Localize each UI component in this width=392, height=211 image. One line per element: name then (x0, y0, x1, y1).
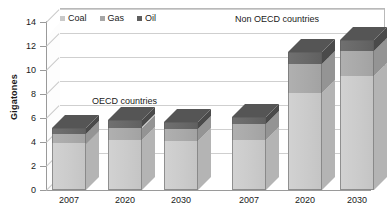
y-axis-label: 8 (0, 90, 36, 99)
segment-front-face (108, 140, 142, 190)
x-axis-label-2007-oecd: 2007 (46, 196, 92, 205)
y-axis-label: 4 (0, 138, 36, 147)
segment-coal-2020 (288, 93, 322, 190)
legend-item-oil[interactable]: Oil (137, 14, 156, 23)
segment-front-face (164, 141, 198, 190)
segment-oil-2007 (232, 117, 266, 124)
y-axis-label: 12 (0, 42, 36, 51)
y-axis-label: 2 (0, 162, 36, 171)
y-axis-label: 14 (0, 18, 36, 27)
legend-item-gas[interactable]: Gas (100, 14, 125, 23)
y-axis-tick (40, 142, 46, 143)
y-axis-label: 0 (0, 186, 36, 195)
bar-non-oecd-2007[interactable] (232, 0, 266, 211)
x-axis-label-2020-oecd: 2020 (102, 196, 148, 205)
segment-front-face (288, 64, 322, 93)
segment-oil-2020 (108, 120, 142, 127)
segment-front-face (288, 52, 322, 64)
segment-oil-2020 (288, 52, 322, 64)
segment-front-face (340, 76, 374, 190)
y-axis-tick (40, 46, 46, 47)
legend-label-coal: Coal (68, 14, 87, 23)
y-axis-tick (40, 118, 46, 119)
segment-gas-2007 (52, 134, 86, 144)
bar-non-oecd-2020[interactable] (288, 0, 322, 211)
segment-gas-2020 (288, 64, 322, 93)
y-axis-label: 6 (0, 114, 36, 123)
segment-coal-2020 (108, 140, 142, 190)
chart-legend: Coal Gas Oil (60, 14, 156, 23)
segment-front-face (108, 128, 142, 140)
segment-front-face (340, 51, 374, 76)
segment-coal-2007 (232, 140, 266, 190)
segment-front-face (52, 134, 86, 144)
annotation-oecd: OECD countries (92, 97, 157, 106)
segment-front-face (164, 122, 198, 129)
segment-gas-2020 (108, 128, 142, 140)
segment-front-face (232, 124, 266, 140)
segment-gas-2030 (340, 51, 374, 76)
legend-item-coal[interactable]: Coal (60, 14, 87, 23)
y-axis-tick (40, 166, 46, 167)
x-axis-label-2020-non-oecd: 2020 (282, 196, 328, 205)
segment-front-face (52, 143, 86, 190)
y-axis-tick (40, 70, 46, 71)
segment-oil-2030 (164, 122, 198, 129)
bar-oecd-2007[interactable] (52, 0, 86, 211)
segment-side-face (374, 63, 387, 190)
segment-front-face (164, 129, 198, 141)
segment-gas-2007 (232, 124, 266, 140)
y-axis-tick (40, 94, 46, 95)
x-axis-label-2030-non-oecd: 2030 (334, 196, 380, 205)
segment-front-face (232, 117, 266, 124)
segment-oil-2030 (340, 40, 374, 51)
segment-coal-2007 (52, 143, 86, 190)
y-axis-tick (40, 22, 46, 23)
y-axis-label: 10 (0, 66, 36, 75)
stacked-column-chart: Gigatones 02468101214 200720202030200720… (0, 0, 392, 211)
coal-swatch-icon (60, 16, 65, 21)
segment-front-face (288, 93, 322, 190)
x-axis-label-2007-non-oecd: 2007 (226, 196, 272, 205)
segment-gas-2030 (164, 129, 198, 141)
segment-oil-2007 (52, 128, 86, 134)
segment-front-face (232, 140, 266, 190)
legend-label-gas: Gas (108, 14, 125, 23)
segment-side-face (322, 80, 335, 190)
segment-front-face (52, 128, 86, 134)
legend-label-oil: Oil (145, 14, 156, 23)
oil-swatch-icon (137, 16, 142, 21)
segment-front-face (108, 120, 142, 127)
x-axis-label-2030-oecd: 2030 (158, 196, 204, 205)
annotation-non-oecd: Non OECD countries (235, 15, 319, 24)
segment-coal-2030 (164, 141, 198, 190)
segment-front-face (340, 40, 374, 51)
y-axis-tick (40, 190, 46, 191)
bar-oecd-2030[interactable] (164, 0, 198, 211)
segment-coal-2030 (340, 76, 374, 190)
bar-non-oecd-2030[interactable] (340, 0, 374, 211)
gas-swatch-icon (100, 16, 105, 21)
